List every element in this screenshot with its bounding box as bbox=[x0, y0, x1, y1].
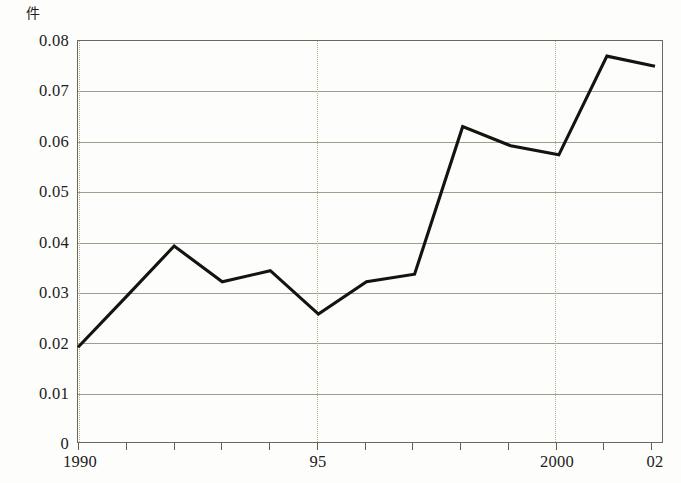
x-tick-label-1990: 1990 bbox=[63, 452, 97, 472]
y-tick-label-0.04: 0.04 bbox=[0, 233, 69, 253]
x-tick-mark-2000 bbox=[556, 443, 557, 450]
gridline-0.04 bbox=[78, 243, 662, 244]
x-tick-mark-2002 bbox=[651, 443, 652, 450]
x-tick-mark-1998 bbox=[460, 443, 461, 450]
y-tick-label-0.02: 0.02 bbox=[0, 334, 69, 354]
vertical-guide-1990 bbox=[79, 41, 81, 442]
x-tick-mark-1995 bbox=[317, 443, 318, 450]
gridline-0.05 bbox=[78, 192, 662, 193]
y-tick-label-0.03: 0.03 bbox=[0, 283, 69, 303]
gridline-0.06 bbox=[78, 142, 662, 143]
chart-page: 件 0.08 0.07 0.06 0.05 0.04 0.03 0.02 0.0… bbox=[0, 0, 681, 483]
y-tick-label-0.08: 0.08 bbox=[0, 31, 69, 51]
y-tick-label-0.06: 0.06 bbox=[0, 132, 69, 152]
gridline-0.01 bbox=[78, 394, 662, 395]
gridline-0.02 bbox=[78, 343, 662, 344]
y-axis-unit-label: 件 bbox=[26, 2, 40, 22]
x-tick-mark-1993 bbox=[221, 443, 222, 450]
x-tick-mark-1990 bbox=[78, 443, 79, 450]
x-tick-mark-1997 bbox=[412, 443, 413, 450]
x-tick-mark-1996 bbox=[365, 443, 366, 450]
y-tick-label-0: 0 bbox=[0, 434, 69, 454]
y-tick-label-0.05: 0.05 bbox=[0, 182, 69, 202]
x-tick-mark-2001 bbox=[603, 443, 604, 450]
x-tick-mark-1994 bbox=[269, 443, 270, 450]
vertical-guide-2000 bbox=[555, 41, 557, 442]
x-tick-label-02: 02 bbox=[646, 452, 663, 472]
plot-area-frame bbox=[77, 40, 663, 443]
x-tick-label-95: 95 bbox=[309, 452, 326, 472]
x-tick-mark-1999 bbox=[508, 443, 509, 450]
gridline-0.03 bbox=[78, 293, 662, 294]
x-tick-mark-1992 bbox=[174, 443, 175, 450]
gridline-0.07 bbox=[78, 91, 662, 92]
x-tick-label-2000: 2000 bbox=[540, 452, 574, 472]
y-tick-label-0.07: 0.07 bbox=[0, 81, 69, 101]
vertical-guide-1995 bbox=[317, 41, 319, 442]
x-tick-mark-1991 bbox=[126, 443, 127, 450]
y-tick-label-0.01: 0.01 bbox=[0, 384, 69, 404]
